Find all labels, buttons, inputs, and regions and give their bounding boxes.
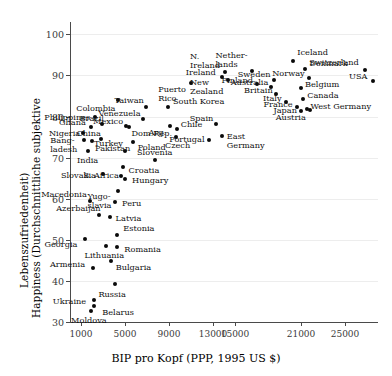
point-label: Peru — [122, 198, 141, 206]
data-point — [123, 177, 127, 181]
data-point — [371, 79, 375, 83]
x-tick — [169, 322, 170, 326]
chart-root: Happiness (Durchschnittliche subjektive … — [0, 0, 392, 376]
y-tick — [66, 75, 70, 76]
data-point — [115, 245, 119, 249]
y-tick-label: 40 — [52, 275, 64, 286]
point-label: Croatia — [129, 165, 160, 173]
data-point — [91, 266, 95, 270]
point-label: S. Africa — [83, 171, 118, 179]
data-point — [291, 59, 295, 63]
x-axis-title: BIP pro Kopf (PPP, 1995 US $) — [0, 352, 392, 365]
data-point — [166, 105, 170, 109]
data-point — [308, 108, 312, 112]
point-label: Bulgaria — [116, 263, 151, 271]
data-point — [175, 127, 179, 131]
point-label: Macedonia — [41, 190, 87, 198]
point-label: Spain — [190, 114, 214, 122]
point-label: New Zealand — [190, 78, 223, 95]
y-tick — [66, 199, 70, 200]
point-label: Nigeria — [49, 128, 80, 136]
y-tick-label: 70 — [52, 152, 64, 163]
data-point — [113, 282, 117, 286]
x-tick-label: 1000 — [70, 329, 93, 339]
data-point — [153, 158, 157, 162]
y-tick-label: 90 — [52, 70, 64, 81]
y-tick-label: 30 — [52, 317, 64, 328]
gridline — [71, 240, 378, 241]
data-point — [301, 97, 305, 101]
x-tick-label: 21000 — [287, 329, 316, 339]
point-label: Latvia — [116, 214, 142, 222]
point-label: India — [77, 156, 98, 164]
data-point — [113, 200, 117, 204]
point-label: Iceland — [297, 48, 328, 56]
gridline — [71, 199, 378, 200]
point-label: Puerto Rico — [158, 85, 186, 102]
data-point — [82, 138, 86, 142]
point-label: Poland — [138, 142, 166, 150]
point-label: China — [76, 129, 100, 137]
point-label: Colombia — [76, 104, 115, 112]
x-tick-label: 5000 — [114, 329, 137, 339]
data-point — [108, 215, 112, 219]
y-tick — [66, 322, 70, 323]
data-point — [121, 165, 125, 169]
gridline — [71, 158, 378, 159]
data-point — [141, 117, 145, 121]
data-point — [97, 213, 101, 217]
point-label: Russia — [98, 290, 125, 298]
x-tick — [213, 322, 214, 326]
point-label: Belgium — [305, 80, 339, 88]
y-tick-label: 100 — [46, 29, 64, 40]
point-label: Moldova — [71, 316, 107, 324]
x-tick — [125, 322, 126, 326]
data-point — [131, 140, 135, 144]
point-label: East Germany — [227, 132, 265, 149]
data-point — [168, 124, 172, 128]
y-tick — [66, 158, 70, 159]
data-point — [89, 309, 93, 313]
point-label: Georgia — [44, 240, 77, 248]
data-point — [220, 134, 224, 138]
point-label: Romania — [124, 245, 161, 253]
point-label: Nether- lands — [215, 51, 247, 68]
point-label: Pakistan — [95, 144, 130, 152]
data-point — [124, 124, 128, 128]
point-label: Philippines — [44, 113, 90, 121]
x-axis-line — [70, 322, 378, 323]
point-label: Austria — [276, 113, 306, 121]
y-axis-title-line1: Happiness (Durchschnittliche subjektive — [30, 98, 42, 318]
x-tick-label: 25000 — [331, 329, 360, 339]
data-point — [299, 86, 303, 90]
point-label: USA — [349, 72, 367, 80]
data-point — [90, 139, 94, 143]
data-point — [207, 138, 211, 142]
point-label: Belarus — [102, 308, 134, 316]
data-point — [104, 244, 108, 248]
data-point — [83, 237, 87, 241]
data-point — [214, 122, 218, 126]
x-tick — [301, 322, 302, 326]
point-label: Bang- ladesh — [50, 136, 77, 153]
plot-area: 30405060708090100 1000500090001300015000… — [70, 22, 378, 322]
point-label: Lithuania — [85, 251, 125, 259]
data-point — [144, 105, 148, 109]
x-tick-label: 9000 — [158, 329, 181, 339]
x-tick-label: 15000 — [221, 329, 250, 339]
point-label: Norway — [272, 69, 305, 77]
x-tick — [235, 322, 236, 326]
data-point — [92, 298, 96, 302]
point-label: Estonia — [123, 224, 154, 232]
point-label: Ukraine — [53, 297, 86, 305]
data-point — [92, 304, 96, 308]
data-point — [93, 115, 97, 119]
point-label: Hungary — [132, 176, 168, 184]
y-axis-title-line2: Lebenszufriedenheit) — [18, 173, 30, 288]
gridline — [71, 34, 378, 35]
y-tick — [66, 34, 70, 35]
point-label: Portugal — [169, 134, 204, 142]
point-label: Canada — [307, 91, 338, 99]
point-label: Taiwan — [114, 96, 144, 104]
data-point — [86, 149, 90, 153]
